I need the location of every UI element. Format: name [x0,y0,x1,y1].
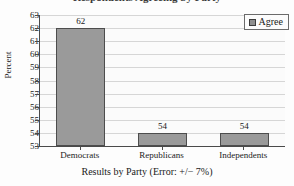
y-tick-label: 58 [5,77,39,86]
y-tick-label: 56 [5,103,39,112]
bar[interactable] [220,133,269,146]
y-tick-label: 62 [5,24,39,33]
y-tick-label: 59 [5,63,39,72]
bar-value-label: 54 [143,121,183,131]
y-tick-label: 63 [5,11,39,20]
y-tick-label: 60 [5,50,39,59]
x-tick-label: Democrats [35,150,125,161]
y-tick-label: 57 [5,90,39,99]
plot-inner: 625454 [40,15,285,146]
bar[interactable] [138,133,187,146]
plot-area: 625454 [39,15,285,147]
bar-value-label: 54 [224,121,264,131]
x-tick-label: Republicans [117,150,207,161]
legend-swatch-agree [249,19,256,26]
bar[interactable] [56,28,105,146]
y-tick-label: 61 [5,37,39,46]
x-axis-title: Results by Party (Error: +/− 7%) [0,166,294,178]
chart-legend: Agree [244,14,289,30]
y-tick-label: 55 [5,116,39,125]
bar-chart-figure: Respondents Agreeing by Party Percent 53… [0,0,294,186]
x-tick-label: Independents [198,150,288,161]
y-axis-ticks: 5354555657585960616263 [0,0,39,186]
bar-value-label: 62 [61,16,101,26]
chart-title-clipped: Respondents Agreeing by Party [0,0,294,3]
y-tick-label: 54 [5,129,39,138]
legend-label-agree: Agree [259,17,283,27]
